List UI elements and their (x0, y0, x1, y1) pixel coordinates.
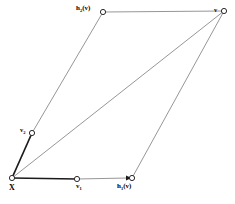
label-origin: X (9, 184, 15, 192)
edge-origin-to-v2 (12, 133, 32, 178)
diagram-canvas: X v1 h1(v) v2 h2(v) v (0, 0, 235, 204)
node-v-apex (221, 8, 226, 13)
diagram-vector-layer (0, 0, 235, 204)
node-h1v (129, 175, 134, 180)
label-h1v-argument: (v) (123, 182, 131, 190)
edge-v1-to-h1v (77, 178, 128, 179)
label-h2v: h2(v) (76, 5, 90, 14)
node-v2 (29, 130, 34, 135)
edge-h1v-to-v-apex (132, 11, 224, 178)
edge-origin-to-v1 (12, 178, 77, 179)
label-v1-subscript: 1 (80, 186, 82, 191)
label-h2v-argument: (v) (82, 4, 90, 12)
label-v2-subscript: 2 (23, 130, 25, 135)
node-h2v (100, 9, 105, 14)
edge-origin-to-v-apex (12, 11, 224, 178)
label-v2: v2 (20, 127, 26, 136)
label-h1v: h1(v) (117, 183, 131, 192)
edge-h2v-to-v-apex (103, 11, 224, 12)
node-v1 (74, 176, 79, 181)
label-v-apex: v (214, 7, 217, 14)
node-origin (9, 175, 14, 180)
label-v1: v1 (76, 183, 82, 192)
